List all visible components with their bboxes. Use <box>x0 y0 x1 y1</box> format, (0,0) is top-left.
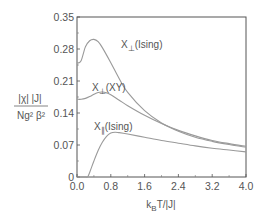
annotation-perp-ising: X⊥(Ising) <box>121 39 162 53</box>
x-tick-label: 1.6 <box>137 180 152 192</box>
y-axis: 00.070.140.210.280.35 <box>54 11 80 183</box>
x-tick-label: 0.8 <box>103 180 118 192</box>
y-axis-label-numerator: |χ| |J| <box>18 93 41 104</box>
x-tick-label: 4.0 <box>239 180 254 192</box>
y-tick-label: 0.21 <box>54 75 75 87</box>
y-tick-label: 0 <box>68 171 74 183</box>
curve-parallel-ising <box>77 132 246 177</box>
y-tick-label: 0.07 <box>54 139 75 151</box>
curve-perp-xy <box>77 92 246 146</box>
y-axis-label-denominator: Ng² β² <box>17 110 46 121</box>
susceptibility-chart: 0.00.81.62.43.24.0 00.070.140.210.280.35… <box>0 0 262 221</box>
x-axis-label: kBT/|J| <box>146 199 175 213</box>
curves <box>77 39 246 177</box>
y-tick-label: 0.35 <box>54 11 75 23</box>
y-tick-label: 0.28 <box>54 43 75 55</box>
x-tick-label: 2.4 <box>171 180 186 192</box>
x-tick-label: 3.2 <box>205 180 220 192</box>
y-tick-label: 0.14 <box>54 107 75 119</box>
